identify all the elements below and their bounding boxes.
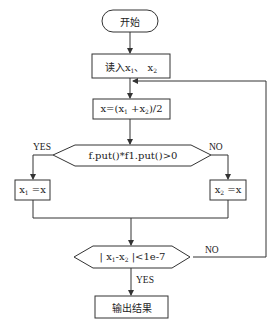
edge-decision1-no [211, 155, 228, 179]
output-label: 输出结果 [112, 300, 152, 315]
edge-merge-left [33, 200, 228, 218]
read-label: 读入x1、 x2 [105, 59, 157, 74]
midpoint-label: x=(x1 +x2)/2 [100, 103, 162, 115]
midpoint-box: x=(x1 +x2)/2 [93, 99, 170, 119]
assign-x2-box: x2 =x [210, 180, 246, 200]
start-terminal: 开始 [102, 10, 158, 32]
output-box: 输出结果 [95, 296, 168, 318]
decision2: | x1-x2 |<1e-7 [90, 246, 175, 268]
decision1: f.put()*f1.put()>0 [75, 145, 191, 166]
assign-x2-label: x2 =x [215, 184, 242, 196]
assign-x1-box: x1 =x [15, 180, 50, 200]
decision1-no-label: NO [209, 142, 223, 152]
edge-decision1-yes [33, 155, 53, 179]
assign-x1-label: x1 =x [19, 184, 46, 196]
decision2-label: | x1-x2 |<1e-7 [100, 251, 166, 263]
decision1-label: f.put()*f1.put()>0 [89, 150, 178, 161]
read-box: 读入x1、 x2 [92, 54, 170, 78]
decision2-yes-label: YES [136, 275, 154, 285]
start-label: 开始 [120, 14, 140, 29]
decision2-no-label: NO [205, 245, 219, 255]
decision1-yes-label: YES [33, 142, 51, 152]
